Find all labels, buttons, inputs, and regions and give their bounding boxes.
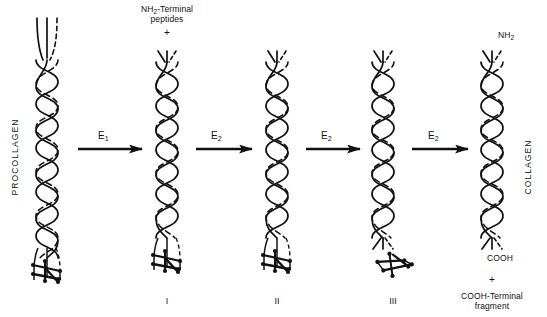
plus-bottom-text: + [489, 274, 495, 285]
plus-bottom-symbol: + [452, 274, 532, 285]
structure-intermediate-3 [372, 51, 416, 282]
nh2-end-text: NH2 [498, 30, 514, 40]
structure-intermediate-2 [261, 51, 292, 274]
collagen-conversion-figure [0, 0, 547, 317]
arrow-3-enzyme-label: E2 [321, 130, 332, 141]
arrow-3-enzyme-text: E2 [321, 130, 332, 141]
structure-intermediate-1 [151, 51, 182, 274]
structure-label-iii-text: III [389, 296, 397, 306]
cooh-fragment-line1: COOH-Terminal [461, 291, 523, 301]
procollagen-label-text: PROCOLLAGEN [10, 119, 20, 196]
cooh-end-label: COOH [460, 253, 540, 263]
procollagen-label: PROCOLLAGEN [10, 117, 20, 197]
plus-top-text: + [164, 27, 170, 38]
structure-procollagen [31, 18, 62, 284]
nh2-end-label: NH2 [466, 30, 546, 40]
collagen-label: COLLAGEN [523, 127, 533, 207]
cooh-end-text: COOH [487, 253, 513, 263]
arrow-1-enzyme-text: E1 [98, 130, 109, 141]
arrow-1-enzyme-label: E1 [98, 130, 109, 141]
structure-label-i: I [137, 296, 197, 306]
diagram-canvas: PROCOLLAGEN COLLAGEN NH2-Terminal peptid… [0, 0, 547, 317]
structure-label-ii-text: II [274, 296, 279, 306]
arrow-4-enzyme-label: E2 [428, 130, 439, 141]
structure-label-ii: II [247, 296, 307, 306]
nh2-peptides-line1: NH2-Terminal [141, 4, 193, 14]
structure-label-i-text: I [166, 296, 169, 306]
cooh-fragment-line2: fragment [475, 301, 509, 311]
structure-collagen [481, 51, 503, 249]
arrow-4-enzyme-text: E2 [428, 130, 439, 141]
arrow-2-enzyme-text: E2 [211, 130, 222, 141]
plus-top-symbol: + [117, 27, 217, 38]
nh2-terminal-peptides-label: NH2-Terminal peptides [117, 4, 217, 25]
cooh-terminal-fragment-label: COOH-Terminal fragment [447, 291, 537, 312]
arrow-2-enzyme-label: E2 [211, 130, 222, 141]
nh2-peptides-line2: peptides [151, 14, 184, 24]
collagen-label-text: COLLAGEN [523, 139, 533, 194]
structure-label-iii: III [363, 296, 423, 306]
